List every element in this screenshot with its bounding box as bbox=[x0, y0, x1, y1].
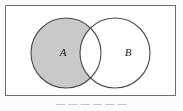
figure-caption-clip: — — — — — — bbox=[0, 99, 183, 111]
venn-figure: A B — — — — — — bbox=[0, 0, 183, 111]
set-a-label: A bbox=[59, 46, 67, 58]
set-b-label: B bbox=[125, 46, 132, 58]
figure-caption: — — — — — — bbox=[0, 99, 183, 108]
venn-diagram-canvas: A B bbox=[5, 5, 176, 96]
